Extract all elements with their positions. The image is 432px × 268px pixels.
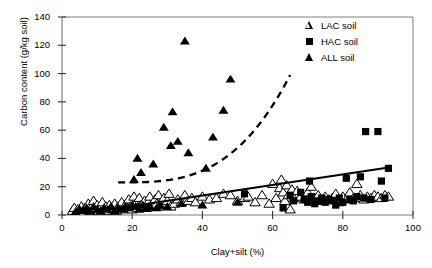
legend-label-all: ALL soil bbox=[321, 52, 354, 63]
tick-marks bbox=[58, 17, 413, 219]
data-point-all bbox=[168, 107, 178, 115]
data-point-hac bbox=[332, 202, 339, 209]
legend-item-lac: LAC soil bbox=[303, 18, 358, 32]
data-point-hac bbox=[374, 128, 381, 135]
data-point-all bbox=[219, 106, 229, 114]
data-point-all bbox=[166, 141, 176, 149]
filled-square-icon bbox=[303, 36, 317, 47]
y-tick-label: 80 bbox=[20, 96, 50, 107]
y-tick-label: 40 bbox=[20, 152, 50, 163]
x-tick-label: 0 bbox=[47, 222, 77, 233]
y-tick-label: 20 bbox=[20, 181, 50, 192]
data-point-all bbox=[133, 154, 143, 162]
regression-line-solid bbox=[83, 167, 392, 214]
legend: LAC soil HAC soil ALL soil bbox=[303, 18, 358, 66]
legend-item-all: ALL soil bbox=[303, 50, 358, 64]
data-point-all bbox=[136, 168, 146, 176]
x-tick-label: 60 bbox=[258, 222, 288, 233]
data-point-all bbox=[226, 75, 236, 83]
figure-container: Carbon content (g/kg soil) Clay+silt (%)… bbox=[0, 0, 432, 268]
x-tick-label: 40 bbox=[187, 222, 217, 233]
data-point-hac bbox=[357, 173, 364, 180]
data-point-all bbox=[159, 123, 169, 131]
data-point-hac bbox=[353, 193, 360, 200]
y-tick-label: 120 bbox=[20, 39, 50, 50]
y-tick-label: 100 bbox=[20, 68, 50, 79]
data-point-lac bbox=[276, 175, 286, 183]
data-point-all bbox=[183, 148, 193, 156]
data-point-hac bbox=[308, 193, 315, 200]
data-point-all bbox=[148, 160, 158, 168]
data-point-hac bbox=[381, 194, 388, 201]
x-axis-label: Clay+silt (%) bbox=[62, 246, 413, 257]
data-point-hac bbox=[339, 199, 346, 206]
x-tick-label: 20 bbox=[117, 222, 147, 233]
data-point-hac bbox=[367, 196, 374, 203]
data-point-all bbox=[208, 133, 218, 141]
legend-item-hac: HAC soil bbox=[303, 34, 358, 48]
legend-label-lac: LAC soil bbox=[321, 20, 356, 31]
filled-triangle-icon bbox=[303, 52, 317, 63]
data-point-lac bbox=[257, 190, 267, 198]
data-point-hac bbox=[280, 204, 287, 211]
trend-line-dashed bbox=[118, 75, 290, 182]
data-point-lac bbox=[164, 189, 174, 197]
open-triangle-icon bbox=[303, 20, 317, 31]
y-tick-label: 0 bbox=[20, 209, 50, 220]
y-tick-label: 140 bbox=[20, 11, 50, 22]
x-tick-label: 80 bbox=[328, 222, 358, 233]
data-point-hac bbox=[241, 190, 248, 197]
data-point-hac bbox=[343, 175, 350, 182]
y-tick-label: 60 bbox=[20, 124, 50, 135]
data-point-all bbox=[173, 137, 183, 145]
data-point-all bbox=[180, 36, 190, 44]
legend-label-hac: HAC soil bbox=[321, 36, 358, 47]
data-point-hac bbox=[290, 197, 297, 204]
data-point-hac bbox=[297, 189, 304, 196]
data-point-hac bbox=[362, 128, 369, 135]
x-tick-label: 100 bbox=[398, 222, 428, 233]
data-point-hac bbox=[378, 177, 385, 184]
data-point-hac bbox=[360, 194, 367, 201]
